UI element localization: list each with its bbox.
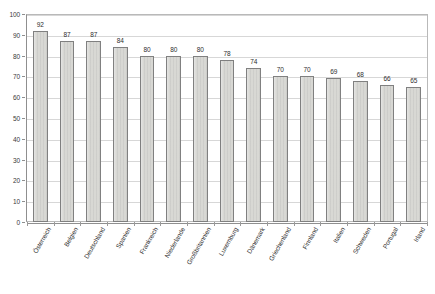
x-axis-label: Frankreich [138,226,159,255]
bar-slot: 70 [294,14,321,222]
x-axis-label: Irland [412,226,426,243]
bar-slot: 68 [347,14,374,222]
y-tick-label: 10 [13,198,20,205]
bar[interactable] [300,76,315,222]
bar[interactable] [33,31,48,222]
y-tick-mark [22,35,25,36]
y-tick-label: 0 [16,219,20,226]
y-tick-mark [22,201,25,202]
x-axis-labels: ÖsterreichBelgienDeutschlandSpanienFrank… [27,226,427,294]
y-axis: 0102030405060708090100 [0,14,24,222]
bar-chart: 0102030405060708090100 92878784808080787… [0,0,435,294]
bar-value-label: 69 [330,68,337,75]
y-tick-label: 70 [13,73,20,80]
bar[interactable] [273,76,288,222]
bar[interactable] [166,56,181,222]
y-tick-mark [22,139,25,140]
bar[interactable] [140,56,155,222]
bar[interactable] [353,81,368,222]
bar-slot: 80 [160,14,187,222]
x-axis-label: Belgien [62,226,79,248]
bar-value-label: 70 [303,66,310,73]
x-axis-label: Großbritannien [185,226,212,266]
bar-slot: 87 [54,14,81,222]
bar-slot: 70 [267,14,294,222]
bar-value-label: 87 [63,31,70,38]
bar-value-label: 65 [410,77,417,84]
bar[interactable] [60,41,75,222]
x-axis-label: Griechenland [267,226,292,262]
bar-slot: 69 [320,14,347,222]
x-axis-label: Schweden [351,226,372,255]
x-axis-label: Niederlande [163,226,186,259]
y-tick-label: 40 [13,135,20,142]
bar-slot: 80 [134,14,161,222]
bar-slot: 87 [80,14,107,222]
y-tick-mark [22,97,25,98]
y-tick-mark [22,222,25,223]
y-tick-mark [22,160,25,161]
bar[interactable] [246,68,261,222]
x-axis-label: Dänemark [245,226,266,255]
bar[interactable] [220,60,235,222]
bar[interactable] [326,78,341,222]
bar-value-label: 80 [143,46,150,53]
y-tick-label: 30 [13,156,20,163]
bar[interactable] [113,47,128,222]
y-tick-label: 20 [13,177,20,184]
x-axis-label: Österreich [32,226,53,255]
y-tick-label: 60 [13,94,20,101]
bar-slot: 66 [374,14,401,222]
bar-slot: 92 [27,14,54,222]
bar-slot: 80 [187,14,214,222]
bar-value-label: 68 [357,71,364,78]
y-tick-mark [22,118,25,119]
y-tick-label: 100 [9,11,20,18]
bar-slot: 84 [107,14,134,222]
y-tick-mark [22,56,25,57]
bar-slot: 65 [400,14,427,222]
bar-value-label: 74 [250,58,257,65]
bar-value-label: 87 [90,31,97,38]
x-axis-label: Italien [331,226,345,244]
x-axis-label: Deutschland [82,226,106,260]
y-tick-mark [22,180,25,181]
bar-slot: 78 [214,14,241,222]
y-tick-label: 80 [13,52,20,59]
bar-value-label: 70 [277,66,284,73]
x-tick-mark [427,222,428,226]
bar[interactable] [380,85,395,222]
bar[interactable] [86,41,101,222]
y-tick-label: 90 [13,31,20,38]
x-axis-label: Portugal [381,226,399,250]
bar-value-label: 80 [170,46,177,53]
bar-value-label: 78 [223,50,230,57]
bar[interactable] [193,56,208,222]
bar[interactable] [406,87,421,222]
y-tick-mark [22,76,25,77]
x-axis-label: Finnland [301,226,319,250]
bar-value-label: 92 [37,21,44,28]
bar-slot: 74 [240,14,267,222]
bar-value-label: 84 [117,37,124,44]
x-axis-label: Luxemburg [217,226,239,257]
x-axis-label: Spanien [115,226,133,250]
y-tick-label: 50 [13,115,20,122]
bar-value-label: 66 [383,75,390,82]
bars-layer: 928787848080807874707069686665 [27,14,427,222]
y-tick-mark [22,14,25,15]
bar-value-label: 80 [197,46,204,53]
